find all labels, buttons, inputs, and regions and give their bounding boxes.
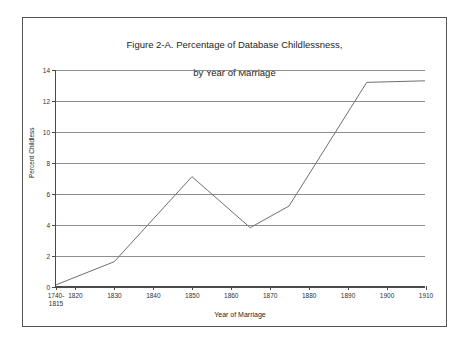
- x-tick-1860: [231, 286, 232, 290]
- x-tick-minor-1835: [134, 286, 135, 288]
- x-axis-label-1900: 1900: [380, 292, 394, 300]
- y-tick-6: [52, 194, 56, 195]
- x-tick-minor-1895: [368, 286, 369, 288]
- y-axis-label-8: 8: [46, 160, 50, 167]
- y-tick-2: [52, 256, 56, 257]
- x-axis-label-1880: 1880: [302, 292, 316, 300]
- x-tick-1820: [75, 286, 76, 290]
- x-tick-1870: [270, 286, 271, 290]
- x-axis-label-1870: 1870: [263, 292, 277, 300]
- y-axis-label-4: 4: [46, 222, 50, 229]
- x-tick-1830: [114, 286, 115, 290]
- x-tick-minor-1875: [290, 286, 291, 288]
- y-tick-4: [52, 225, 56, 226]
- y-tick-8: [52, 163, 56, 164]
- x-axis-label-1820: 1820: [68, 292, 82, 300]
- plot-area: 024681012141740- 18151820183018401850186…: [55, 70, 425, 287]
- y-tick-10: [52, 132, 56, 133]
- y-axis-label-10: 10: [43, 129, 50, 136]
- x-tick-1850: [192, 286, 193, 290]
- y-tick-12: [52, 101, 56, 102]
- x-tick-1815: [56, 286, 57, 290]
- y-axis-label-0: 0: [46, 284, 50, 291]
- x-axis-label-1890: 1890: [341, 292, 355, 300]
- x-tick-minor-1825: [95, 286, 96, 288]
- x-tick-minor-1865: [251, 286, 252, 288]
- x-tick-minor-1855: [212, 286, 213, 288]
- series-svg: [56, 70, 425, 286]
- x-tick-minor-1905: [407, 286, 408, 288]
- x-axis-label-1815: 1740- 1815: [48, 292, 65, 308]
- y-axis-label-6: 6: [46, 191, 50, 198]
- x-tick-1840: [153, 286, 154, 290]
- x-axis-label-1840: 1840: [146, 292, 160, 300]
- y-tick-14: [52, 70, 56, 71]
- y-axis-label-2: 2: [46, 253, 50, 260]
- y-axis-label-14: 14: [43, 67, 50, 74]
- figure-container: Figure 2-A. Percentage of Database Child…: [0, 0, 467, 342]
- x-tick-1890: [348, 286, 349, 290]
- x-axis-label-1830: 1830: [107, 292, 121, 300]
- chart-title-line-1: Figure 2-A. Percentage of Database Child…: [22, 38, 447, 52]
- x-axis-label-1850: 1850: [185, 292, 199, 300]
- x-tick-1910: [426, 286, 427, 290]
- x-axis-label-1860: 1860: [224, 292, 238, 300]
- series-line-percent-childless: [56, 81, 425, 285]
- x-tick-1880: [309, 286, 310, 290]
- x-tick-minor-1845: [173, 286, 174, 288]
- plot-wrapper: 024681012141740- 18151820183018401850186…: [55, 70, 425, 287]
- x-tick-minor-1885: [329, 286, 330, 288]
- x-axis-title: Year of Marriage: [55, 311, 425, 318]
- x-tick-1900: [387, 286, 388, 290]
- y-axis-title: Percent Childless: [28, 127, 35, 178]
- x-axis-label-1910: 1910: [419, 292, 433, 300]
- y-axis-label-12: 12: [43, 98, 50, 105]
